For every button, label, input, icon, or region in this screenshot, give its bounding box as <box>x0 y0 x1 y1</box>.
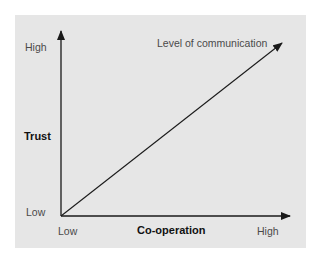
y-axis-title: Trust <box>24 131 51 142</box>
x-axis-low-label: Low <box>58 226 77 237</box>
communication-arrow <box>61 43 282 216</box>
x-axis-high-label: High <box>257 226 279 237</box>
line-label: Level of communication <box>157 38 267 49</box>
y-axis-high-label: High <box>25 42 47 53</box>
y-axis-low-label: Low <box>26 207 45 218</box>
x-axis-title: Co-operation <box>137 225 205 236</box>
